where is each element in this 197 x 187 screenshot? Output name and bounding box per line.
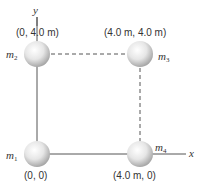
mass-sphere-m3: [127, 41, 153, 67]
mass-square-diagram: y x (0, 4.0 m) (4.0 m, 4.0 m) (0, 0) (4.…: [0, 0, 197, 187]
coord-label-m3: (4.0 m, 4.0 m): [104, 27, 166, 38]
mass-sphere-m2: [24, 41, 50, 67]
coord-label-m2: (0, 4.0 m): [16, 27, 59, 38]
mass-label-m1: m1: [6, 149, 18, 163]
mass-label-m3: m3: [158, 50, 170, 64]
coord-label-m4: (4.0 m, 0): [113, 170, 156, 181]
mass-label-m2: m2: [6, 48, 18, 62]
coord-label-m1: (0, 0): [24, 170, 47, 181]
mass-sphere-m4: [127, 141, 153, 167]
mass-sphere-m1: [24, 141, 50, 167]
y-axis-label: y: [32, 4, 38, 16]
x-axis-label: x: [188, 147, 194, 159]
mass-label-m4: m4: [155, 141, 167, 155]
